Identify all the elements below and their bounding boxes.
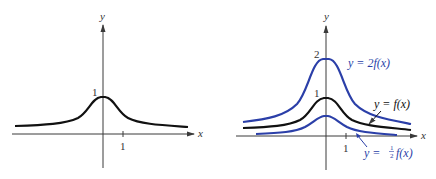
svg-text:f(x): f(x) [396, 146, 413, 160]
right-x-tick-label: 1 [343, 142, 349, 154]
left-x-label: x [197, 127, 203, 139]
left-y-tick-label: 1 [92, 86, 98, 98]
left-x-tick-label: 1 [120, 140, 126, 152]
right-y-label: y [323, 10, 329, 22]
svg-text:1: 1 [390, 144, 394, 152]
svg-text:2: 2 [390, 152, 394, 160]
label-2f: y = 2f(x) [347, 56, 390, 70]
left-graph: x y 1 1 [12, 10, 203, 168]
right-y-tick-label-2: 2 [314, 48, 320, 60]
figure: x y 1 1 x y 1 1 2 y = 2f(x) y = f(x) y =… [0, 0, 436, 179]
svg-text:y =: y = [363, 146, 380, 160]
right-graph: x y 1 1 2 y = 2f(x) y = f(x) y = 1 2 f(x… [236, 10, 426, 170]
right-x-label: x [420, 129, 426, 141]
pointer-half-f [358, 136, 367, 147]
label-half-f: y = 1 2 f(x) [363, 144, 413, 160]
left-curve-f [15, 97, 188, 127]
right-y-tick-label-1: 1 [314, 87, 320, 99]
label-f: y = f(x) [373, 97, 410, 111]
left-y-label: y [99, 10, 105, 22]
